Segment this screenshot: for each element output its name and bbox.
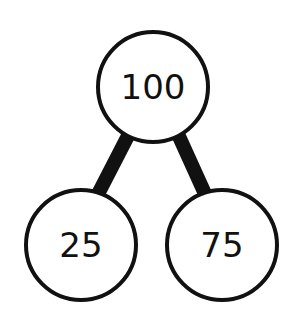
connector-left	[97, 132, 130, 196]
number-bond-diagram: 100 25 75	[0, 0, 293, 329]
connector-right	[177, 132, 206, 196]
part-right-value: 75	[200, 225, 243, 265]
whole-value: 100	[121, 67, 186, 107]
part-left-value: 25	[59, 225, 102, 265]
